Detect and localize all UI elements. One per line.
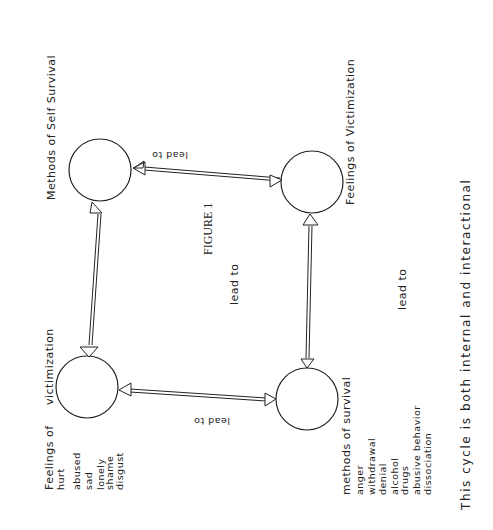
list-item-denial: denial <box>377 463 388 495</box>
node-methods-self-survival <box>69 139 131 201</box>
list-item-anger: anger <box>354 465 365 495</box>
list-item-dissociation: dissociation <box>422 433 433 495</box>
edge-right <box>301 214 318 368</box>
label-methods-of-survival: methods of survival <box>340 377 353 495</box>
list-item-hurt: hurt <box>55 468 66 490</box>
node-methods-survival <box>276 368 338 430</box>
edge-bottom <box>119 383 276 406</box>
list-item-withdrawal: withdrawal <box>366 438 377 495</box>
edge-top <box>133 161 282 187</box>
label-methods-self-survival: Methods of Self Survival <box>45 55 58 200</box>
list-item-sad: sad <box>83 472 94 490</box>
cycle-diagram: Methods of Self Survival Feelings of Vic… <box>0 0 493 530</box>
label-victimization: victimization <box>43 328 56 405</box>
figure-title: FIGURE 1 <box>201 203 215 255</box>
edge-label-top: lead to <box>152 150 188 161</box>
edge-label-bottom: lead to <box>194 416 230 427</box>
node-feelings-victimization-top <box>281 151 343 213</box>
edge-label-right: lead to <box>396 268 409 310</box>
list-item-abusive-behavior: abusive behavior <box>411 405 422 495</box>
list-item-drugs: drugs <box>399 466 410 495</box>
label-feelings-victimization-top: Feelings of Victimization <box>344 59 357 205</box>
edge-left <box>80 202 102 357</box>
list-item-abused: abused <box>71 452 82 490</box>
node-feelings-victimization-bottom <box>56 356 118 418</box>
figure-footnote: This cycle is both internal and interact… <box>459 179 473 511</box>
edge-label-left: lead to <box>228 263 241 305</box>
list-item-disgust: disgust <box>114 452 125 490</box>
